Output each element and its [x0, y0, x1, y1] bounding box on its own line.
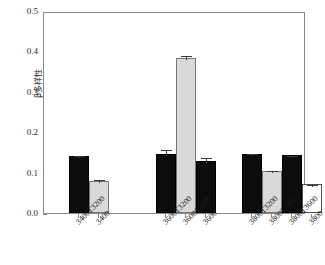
plot-area: [43, 12, 305, 214]
error-cap-3800T3600: [287, 156, 298, 157]
y-tick-label: 0.0: [0, 208, 43, 218]
bar-3600T3200: [156, 154, 176, 213]
error-cap-3400: [94, 180, 105, 181]
error-cap-3800: [307, 185, 318, 186]
y-tick-label: 0.3: [0, 87, 43, 97]
error-cap-3600T3400: [181, 56, 192, 57]
error-cap-3800T3200: [247, 154, 258, 155]
bar-3600T3400: [176, 58, 196, 213]
error-cap-3600: [201, 158, 212, 159]
bar-chart-figure: β多样性 0.00.10.20.30.40.5 3400T32003400360…: [0, 0, 325, 265]
error-cap-3600T3200: [161, 150, 172, 151]
bar-3800T3200: [242, 154, 262, 213]
y-axis-label: β多样性: [32, 49, 43, 119]
y-tick-label: 0.4: [0, 46, 43, 56]
error-cap-3400T3200: [74, 156, 85, 157]
y-tick-label: 0.5: [0, 6, 43, 16]
bar-3400T3200: [69, 156, 89, 213]
y-tick-label: 0.1: [0, 168, 43, 178]
y-tick-mark: [43, 214, 47, 215]
error-cap-3800T3400: [267, 171, 278, 172]
y-tick-label: 0.2: [0, 127, 43, 137]
